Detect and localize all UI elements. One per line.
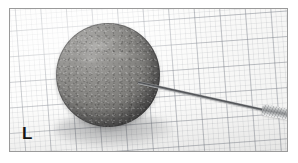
specimen-photograph: L [0,0,298,163]
orientation-label: L [22,125,32,142]
gray-sphere-specimen [56,23,160,127]
specimen-edge-rim [56,23,160,127]
photo-frame-border: L [9,8,288,152]
